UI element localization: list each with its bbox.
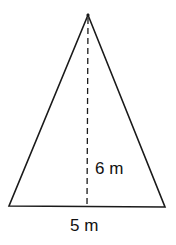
- apex-dot: [86, 13, 89, 16]
- height-dashed-line: [87, 18, 88, 206]
- triangle-diagram: 6 m 5 m: [0, 0, 176, 245]
- base-label: 5 m: [70, 216, 98, 235]
- height-label: 6 m: [95, 159, 123, 178]
